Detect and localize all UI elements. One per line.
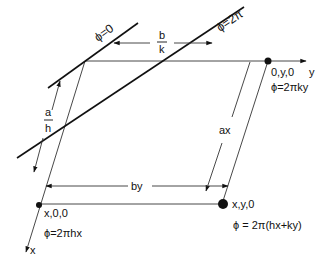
point-x00 bbox=[36, 202, 42, 208]
point-x00-coord: x,0,0 bbox=[44, 207, 68, 219]
diagram-canvas: ϕ=0 ϕ=2π b k a h ax by y x 0,y,0 ϕ=2πky … bbox=[0, 0, 335, 266]
point-xy0-phase: ϕ = 2π(hx+ky) bbox=[233, 219, 302, 231]
ah-arrow-up bbox=[52, 81, 60, 110]
point-0y0-coord: 0,y,0 bbox=[271, 66, 294, 78]
point-0y0 bbox=[265, 58, 272, 65]
ah-numerator: a bbox=[45, 106, 52, 118]
plane-phi-2pi-label: ϕ=2π bbox=[214, 7, 246, 35]
point-x00-phase: ϕ=2πhx bbox=[44, 227, 82, 239]
ax-label: ax bbox=[219, 124, 231, 136]
point-xy0-coord: x,y,0 bbox=[232, 198, 254, 210]
y-axis-label: y bbox=[309, 66, 315, 78]
bk-numerator: b bbox=[159, 29, 165, 41]
ah-denominator: h bbox=[45, 122, 51, 134]
ax-line-bottom bbox=[206, 143, 222, 191]
point-0y0-phase: ϕ=2πky bbox=[271, 81, 309, 93]
x-axis bbox=[26, 61, 85, 252]
by-label: by bbox=[131, 180, 143, 192]
ax-line-top bbox=[232, 62, 250, 117]
plane-phi-2pi bbox=[17, 7, 244, 158]
point-xy0 bbox=[218, 199, 228, 209]
bk-denominator: k bbox=[159, 43, 165, 55]
x-axis-label: x bbox=[30, 244, 36, 256]
